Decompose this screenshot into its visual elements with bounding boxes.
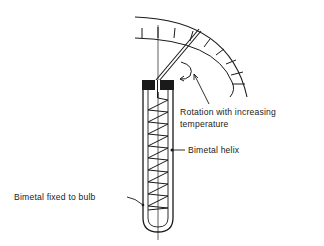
- fixed-leader: [127, 197, 143, 205]
- rotation-leader: [194, 74, 209, 104]
- helix-label: Bimetal helix: [188, 145, 239, 155]
- fixed-label: Bimetal fixed to bulb: [14, 192, 96, 202]
- rotation-label-line2: temperature: [180, 119, 229, 129]
- thermometer-diagram: [0, 0, 324, 246]
- rotation-arrow: [180, 62, 191, 79]
- needle: [156, 29, 199, 80]
- rotation-label-line1: Rotation with increasing: [180, 107, 276, 117]
